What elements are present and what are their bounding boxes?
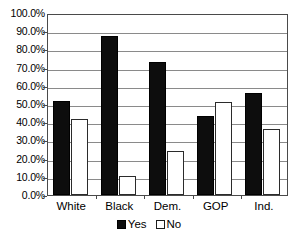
- y-axis-tick-label: 80.0%: [16, 44, 45, 55]
- bar-white-yes: [53, 101, 70, 195]
- bar-white-no: [71, 119, 88, 195]
- x-axis-tick-mark: [144, 195, 145, 199]
- legend-swatch-icon: [117, 220, 126, 229]
- bar-dem-yes: [149, 62, 166, 195]
- legend-label: No: [167, 218, 182, 230]
- chart-legend: YesNo: [0, 218, 298, 230]
- gridline: [48, 51, 287, 52]
- bar-gop-yes: [197, 116, 214, 195]
- x-axis-tick-mark: [241, 195, 242, 199]
- x-axis-tick-mark: [193, 195, 194, 199]
- x-axis-category-label: Black: [95, 200, 143, 213]
- bar-gop-no: [215, 102, 232, 195]
- y-axis-tick-label: 30.0%: [16, 135, 45, 146]
- x-axis-tick-mark: [96, 195, 97, 199]
- y-axis-tick-label: 100.0%: [11, 8, 45, 19]
- x-axis-category-label: Ind.: [240, 200, 288, 213]
- bar-ind-no: [263, 129, 280, 195]
- gridline: [48, 70, 287, 71]
- bar-chart: 100.0%90.0%80.0%70.0%60.0%50.0%40.0%30.0…: [0, 0, 298, 237]
- y-axis-tick-label: 60.0%: [16, 81, 45, 92]
- y-axis-tick-label: 20.0%: [16, 154, 45, 165]
- plot-area: [47, 14, 288, 196]
- y-axis-tick-mark: [43, 196, 47, 197]
- bar-black-yes: [101, 36, 118, 195]
- y-axis-tick-label: 40.0%: [16, 117, 45, 128]
- legend-item-no[interactable]: No: [156, 218, 182, 230]
- y-axis-tick-label: 90.0%: [16, 26, 45, 37]
- legend-label: Yes: [128, 218, 147, 230]
- gridline: [48, 88, 287, 89]
- gridline: [48, 33, 287, 34]
- bar-dem-no: [167, 151, 184, 195]
- bar-black-no: [119, 176, 136, 195]
- x-axis-category-label: Dem.: [143, 200, 191, 213]
- legend-item-yes[interactable]: Yes: [117, 218, 147, 230]
- x-axis-category-label: White: [47, 200, 95, 213]
- y-axis-tick-label: 10.0%: [16, 172, 45, 183]
- y-axis-tick-label: 50.0%: [16, 99, 45, 110]
- bar-ind-yes: [245, 93, 262, 195]
- y-axis-tick-label: 70.0%: [16, 63, 45, 74]
- legend-swatch-icon: [156, 220, 165, 229]
- y-axis-tick-label: 0.0%: [22, 190, 45, 201]
- x-axis-category-label: GOP: [192, 200, 240, 213]
